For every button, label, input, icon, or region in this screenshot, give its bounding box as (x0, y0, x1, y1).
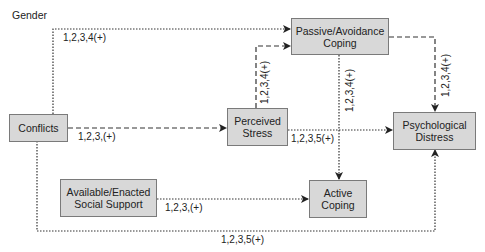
edge-label-conflicts-passive: 1,2,3,4(+) (63, 32, 106, 43)
edge-label-conflicts-distress: 1,2,3,5(+) (221, 234, 264, 245)
edge-label-passive-distress: 1,2,3,4(+) (440, 54, 451, 97)
node-social-support: Available/Enacted Social Support (60, 179, 157, 217)
node-perceived-stress: Perceived Stress (227, 108, 288, 146)
node-passive-avoidance-coping: Passive/Avoidance Coping (291, 18, 389, 55)
edge-passive-distress (389, 37, 435, 111)
node-conflicts: Conflicts (9, 114, 68, 142)
moderator-label-gender: Gender (12, 9, 47, 21)
node-active-coping: Active Coping (309, 180, 367, 218)
node-psychological-distress: Psychological Distress (393, 112, 476, 150)
edge-label-conflicts-stress: 1,2,3,(+) (78, 131, 116, 142)
edge-label-stress-passive: 1,2,3,4(+) (259, 61, 270, 104)
edge-label-passive-active: 1,2,3,4(+) (344, 69, 355, 112)
edge-label-support-active: 1,2,3,(+) (165, 202, 203, 213)
edge-label-stress-distress: 1,2,3,5(+) (291, 133, 334, 144)
